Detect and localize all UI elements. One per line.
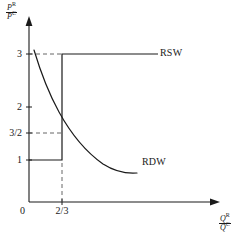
x-axis-arrowhead (210, 199, 220, 206)
y-tick-label-3: 3 (4, 49, 22, 59)
x-tick-label-2-3: 2/3 (51, 206, 73, 216)
y-axis-arrowhead (26, 16, 33, 26)
demand-curve-rdw (34, 50, 137, 173)
demand-series-label: RDW (142, 157, 166, 167)
origin-label: 0 (12, 206, 25, 216)
supply-curve-rsw (29, 54, 158, 160)
x-axis-label-denominator: QC (219, 224, 231, 232)
supply-series-label: RSW (160, 48, 182, 58)
y-tick-label-3-2: 3/2 (0, 128, 22, 138)
y-tick-label-1: 1 (4, 155, 22, 165)
y-axis-label-denominator: PC (6, 13, 17, 21)
y-axis-label: PR PC (6, 4, 17, 22)
figure-root: PR PC QR QC 3 2 3/2 1 0 2/3 RSW RDW (0, 0, 247, 251)
y-tick-label-2: 2 (4, 102, 22, 112)
chart-plot-area (0, 0, 247, 251)
x-axis-label: QR QC (219, 215, 231, 233)
